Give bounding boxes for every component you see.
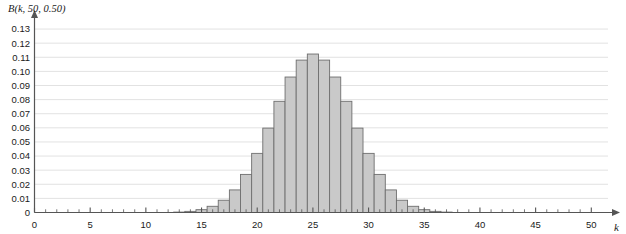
x-tick-label: 45 [530, 219, 541, 230]
y-tick-label: 0.05 [12, 136, 31, 147]
y-tick-label: 0 [25, 207, 30, 218]
x-tick-label: 50 [586, 219, 597, 230]
y-tick-label: 0.09 [12, 80, 31, 91]
binomial-histogram-chart: 00.010.020.030.040.050.060.070.080.090.1… [0, 0, 626, 234]
y-tick-label: 0.06 [12, 122, 31, 133]
y-tick-label: 0.08 [12, 94, 31, 105]
histogram-bar [274, 101, 285, 212]
chart-canvas: 00.010.020.030.040.050.060.070.080.090.1… [0, 0, 626, 234]
x-tick-label: 35 [419, 219, 430, 230]
y-tick-label: 0.10 [12, 66, 31, 77]
y-tick-label: 0.07 [12, 108, 31, 119]
x-tick-label: 25 [308, 219, 319, 230]
y-tick-label-group: 00.010.020.030.040.050.060.070.080.090.1… [12, 23, 31, 217]
y-tick-label: 0.11 [12, 52, 30, 63]
histogram-bar [374, 174, 385, 212]
x-tick-group [35, 208, 592, 213]
x-axis-label: k [614, 221, 620, 233]
histogram-bar [296, 60, 307, 212]
y-tick-label: 0.04 [12, 150, 31, 161]
x-tick-label: 40 [475, 219, 486, 230]
x-tick-label: 0 [32, 219, 37, 230]
x-tick-label: 5 [88, 219, 93, 230]
histogram-bar [285, 77, 296, 212]
histogram-bar [363, 153, 374, 212]
x-tick-label: 10 [141, 219, 152, 230]
bars-group [174, 54, 452, 212]
x-tick-label-group: 05101520253035404550 [32, 219, 597, 230]
y-tick-label: 0.01 [12, 193, 31, 204]
histogram-bar [318, 60, 329, 212]
y-tick-label: 0.03 [12, 165, 31, 176]
histogram-bar [229, 190, 240, 213]
histogram-bar [330, 77, 341, 212]
x-tick-label: 30 [363, 219, 374, 230]
histogram-bar [241, 174, 252, 212]
x-tick-label: 15 [196, 219, 207, 230]
y-tick-label: 0.12 [12, 38, 31, 49]
histogram-bar [307, 54, 318, 212]
histogram-bar [385, 190, 396, 213]
histogram-bar [263, 128, 274, 212]
histogram-bar [252, 153, 263, 212]
histogram-bar [352, 128, 363, 212]
x-axis-arrow [612, 209, 620, 216]
y-tick-label: 0.13 [12, 23, 31, 34]
histogram-bar [341, 101, 352, 212]
x-tick-label: 20 [252, 219, 263, 230]
chart-title: B(k, 50, 0.50) [8, 3, 66, 15]
y-tick-label: 0.02 [12, 179, 31, 190]
